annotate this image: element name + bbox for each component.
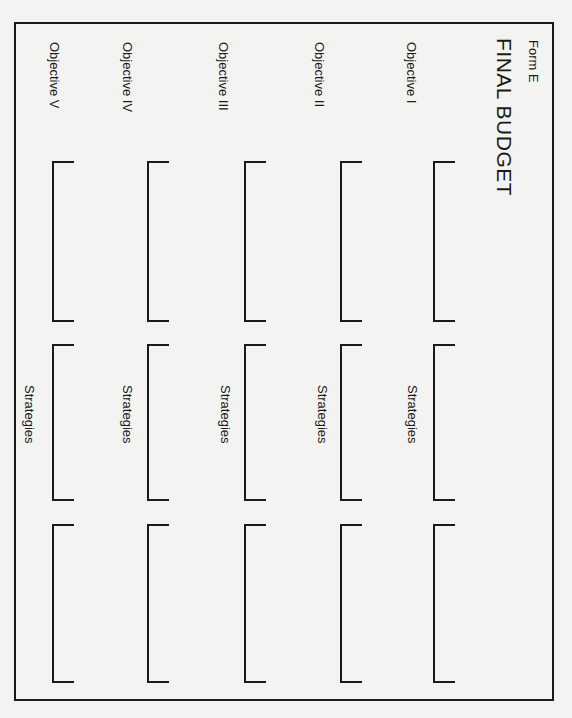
entry-bracket-field[interactable]	[433, 344, 455, 501]
objective-label: Objective V	[48, 42, 61, 108]
strategies-label: Strategies	[121, 385, 134, 444]
objective-label: Objective IV	[121, 42, 134, 112]
entry-bracket-field[interactable]	[340, 524, 362, 683]
entry-bracket-field[interactable]	[244, 344, 266, 501]
form-label: Form E	[527, 40, 540, 83]
objective-label: Objective III	[217, 42, 230, 111]
entry-bracket-field[interactable]	[147, 524, 169, 683]
strategies-label: Strategies	[406, 385, 419, 444]
entry-bracket-field[interactable]	[52, 344, 74, 501]
entry-bracket-field[interactable]	[147, 161, 169, 322]
objective-label: Objective II	[313, 42, 326, 107]
entry-bracket-field[interactable]	[52, 161, 74, 322]
form-border	[14, 22, 554, 701]
entry-bracket-field[interactable]	[433, 524, 455, 683]
entry-bracket-field[interactable]	[147, 344, 169, 501]
strategies-label: Strategies	[219, 385, 232, 444]
entry-bracket-field[interactable]	[433, 161, 455, 322]
entry-bracket-field[interactable]	[340, 161, 362, 322]
strategies-label: Strategies	[23, 385, 36, 444]
page-title: FINAL BUDGET	[494, 38, 515, 196]
strategies-label: Strategies	[316, 385, 329, 444]
entry-bracket-field[interactable]	[244, 524, 266, 683]
entry-bracket-field[interactable]	[244, 161, 266, 322]
entry-bracket-field[interactable]	[52, 524, 74, 683]
objective-label: Objective I	[405, 42, 418, 103]
entry-bracket-field[interactable]	[340, 344, 362, 501]
